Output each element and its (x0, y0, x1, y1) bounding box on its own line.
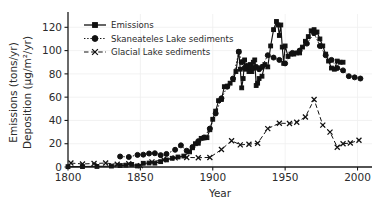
y-tick-label: 120 (42, 21, 62, 33)
data-point (283, 61, 288, 66)
data-point (219, 147, 224, 152)
data-point (118, 154, 123, 159)
data-point (202, 135, 207, 140)
data-point (207, 126, 212, 131)
data-point (259, 64, 264, 69)
data-point (229, 138, 234, 143)
series-2 (68, 97, 361, 168)
data-point (318, 37, 322, 41)
y-tick-label: 100 (42, 44, 62, 56)
data-point (147, 151, 152, 156)
data-point (341, 68, 346, 73)
data-point (335, 66, 340, 71)
data-point (269, 44, 273, 48)
data-point (126, 154, 131, 159)
data-point (277, 34, 281, 38)
data-point (272, 28, 276, 32)
data-point (164, 151, 169, 156)
y-axis-title-emissions: Emissions (tons/yr) (7, 42, 19, 142)
data-point (271, 55, 276, 60)
chart-figure: 02040608010012018001850190019502000YearE… (0, 0, 391, 204)
data-point (239, 60, 244, 65)
data-point (283, 44, 287, 48)
x-axis-title: Year (208, 187, 232, 199)
data-point (297, 48, 302, 53)
data-point (335, 145, 340, 150)
data-point (173, 147, 178, 152)
data-point (238, 67, 242, 71)
chart-legend: EmissionsSkaneateles Lake sedimentsGlaci… (84, 20, 234, 57)
data-point (213, 111, 218, 116)
line-chart: 02040608010012018001850190019502000YearE… (0, 0, 391, 204)
data-point (265, 53, 270, 58)
data-point (240, 86, 244, 90)
data-point (346, 74, 351, 79)
y-tick-label: 20 (49, 137, 62, 149)
data-point (317, 43, 322, 48)
data-point (312, 97, 317, 102)
y-tick-label: 80 (49, 68, 62, 80)
data-point (358, 76, 363, 81)
data-point (320, 123, 325, 128)
data-point (306, 35, 310, 39)
data-point (236, 49, 241, 54)
data-point (277, 121, 282, 126)
x-tick-label: 2000 (344, 171, 371, 183)
data-point (231, 76, 236, 81)
data-point (304, 41, 309, 46)
legend-label: Skaneateles Lake sediments (111, 34, 234, 44)
data-point (135, 152, 140, 157)
data-point (253, 58, 257, 62)
data-point (279, 23, 283, 27)
data-point (190, 144, 195, 149)
data-point (158, 153, 163, 158)
data-point (260, 74, 264, 78)
data-point (266, 65, 270, 69)
data-point (225, 84, 230, 89)
x-tick-label: 1850 (127, 171, 154, 183)
data-point (329, 57, 334, 62)
data-point (196, 139, 201, 144)
legend-marker-circle (92, 36, 98, 42)
data-point (241, 77, 245, 81)
data-point (348, 141, 353, 146)
y-tick-label: 60 (49, 91, 62, 103)
legend-item-1[interactable]: Skaneateles Lake sediments (84, 34, 234, 44)
data-point (303, 114, 308, 119)
data-point (277, 57, 282, 62)
legend-label: Emissions (111, 20, 154, 30)
data-point (312, 31, 317, 36)
legend-marker-square (93, 23, 98, 28)
legend-item-2[interactable]: Glacial Lake sediments (84, 47, 211, 57)
x-tick-label: 1900 (199, 171, 226, 183)
data-point (178, 143, 183, 148)
data-point (341, 60, 345, 64)
data-point (141, 152, 146, 157)
data-point (184, 148, 189, 153)
x-tick-label: 1800 (55, 171, 82, 183)
data-point (290, 50, 295, 55)
data-point (219, 96, 224, 101)
y-tick-label: 40 (49, 114, 62, 126)
x-tick-label: 1950 (272, 171, 299, 183)
data-point (323, 53, 328, 58)
data-point (328, 130, 333, 135)
data-point (256, 81, 260, 85)
legend-label: Glacial Lake sediments (111, 47, 211, 57)
data-point (352, 75, 357, 80)
y-axis-title-deposition: Deposition (μg/m²/yr) (21, 36, 33, 149)
data-point (265, 126, 270, 131)
data-point (152, 151, 157, 156)
legend-item-0[interactable]: Emissions (84, 20, 154, 30)
